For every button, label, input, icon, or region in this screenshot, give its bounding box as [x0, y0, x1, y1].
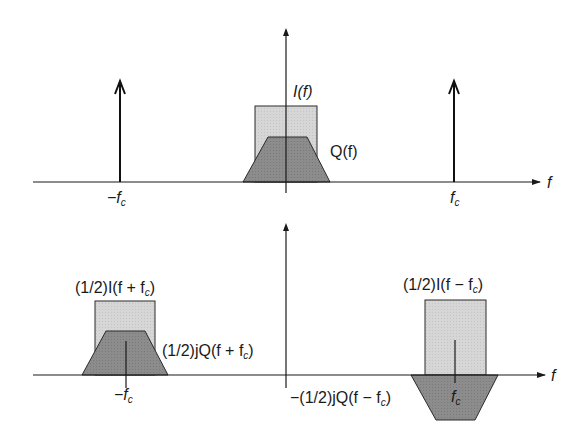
- impulse-neg-fc: [115, 81, 125, 182]
- top-axis-label-f: f: [547, 174, 553, 191]
- top-axis-arrowhead-icon: [532, 179, 541, 185]
- label-neg-fc-bottom: −fc: [114, 386, 133, 405]
- label-half-I-minus: (1/2)I(f − fc): [403, 276, 483, 295]
- bottom-vaxis-arrowhead-icon: [283, 223, 289, 231]
- impulse-pos-fc: [449, 81, 459, 182]
- top-vaxis-arrowhead-icon: [283, 28, 289, 36]
- bottom-axis-label-f: f: [551, 367, 557, 384]
- label-half-jQ-plus: (1/2)jQ(f + fc): [162, 342, 254, 361]
- label-neg-half-jQ-minus: −(1/2)jQ(f − fc): [290, 389, 391, 408]
- label-neg-fc-top: −fc: [107, 189, 126, 208]
- bottom-panel: (1/2)I(f + fc) (1/2)jQ(f + fc) −fc (1/2)…: [33, 223, 557, 420]
- label-pos-fc-top: fc: [450, 189, 459, 208]
- top-panel: I(f) Q(f) −fc fc f: [33, 28, 553, 208]
- spectrum-diagram: I(f) Q(f) −fc fc f (1/2)I(f + fc) (1/2)j…: [0, 0, 587, 439]
- label-Q-of-f: Q(f): [330, 143, 358, 160]
- label-I-of-f: I(f): [293, 83, 313, 100]
- label-half-I-plus: (1/2)I(f + fc): [75, 279, 155, 298]
- bottom-axis-arrowhead-icon: [537, 372, 546, 378]
